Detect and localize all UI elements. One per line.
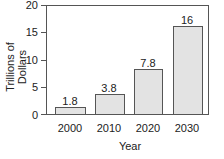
bar-value-label: 3.8: [89, 82, 129, 94]
x-tick-label: 2010: [89, 122, 129, 134]
bar-2030: [173, 26, 203, 114]
y-tick-label: 15: [22, 27, 38, 38]
y-tick-label: 0: [22, 110, 38, 121]
x-tick-label: 2020: [128, 122, 168, 134]
y-tick-label: 5: [22, 82, 38, 93]
x-axis-title: Year: [110, 140, 150, 152]
y-tick-label: 20: [22, 0, 38, 11]
bar-2010: [95, 94, 125, 114]
bar-value-label: 7.8: [128, 57, 168, 69]
bar-value-label: 1.8: [50, 95, 90, 107]
y-axis-title: Trillions of Dollars: [4, 27, 28, 107]
bar-2020: [134, 69, 163, 114]
x-tick-label: 2030: [167, 122, 207, 134]
x-tick-label: 2000: [50, 122, 90, 134]
bar-value-label: 16: [167, 14, 207, 26]
bar-2000: [55, 107, 86, 114]
y-tick-label: 10: [22, 55, 38, 66]
